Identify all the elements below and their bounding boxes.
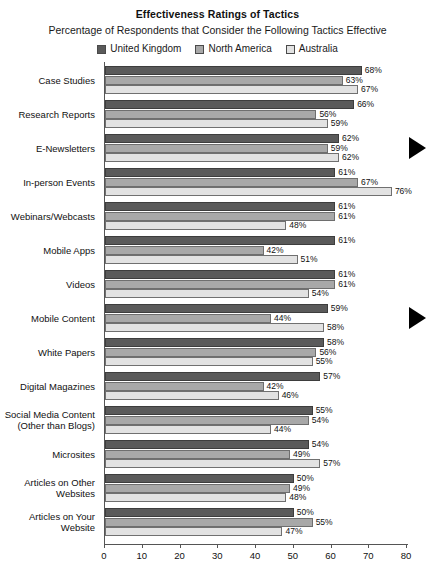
bar-value-label: 61%	[338, 211, 355, 222]
legend-item-north-america[interactable]: North America	[195, 44, 271, 54]
bar-row: 59%	[105, 304, 407, 313]
legend-item-australia[interactable]: Australia	[286, 44, 338, 54]
bar-row: 76%	[105, 187, 407, 196]
bar-value-label: 62%	[342, 152, 359, 163]
legend-label: United Kingdom	[110, 44, 181, 54]
bar-value-label: 59%	[331, 118, 348, 129]
bar-north-america[interactable]	[105, 518, 313, 527]
bar-row: 61%	[105, 236, 407, 245]
category-label: Webinars/Webcasts	[0, 211, 95, 222]
right-triangle-marker	[409, 137, 426, 159]
bar-north-america[interactable]	[105, 110, 316, 119]
category-label-column: Case StudiesResearch ReportsE-Newsletter…	[0, 62, 100, 542]
x-axis-tick	[406, 544, 407, 548]
bar-united-kingdom[interactable]	[105, 100, 354, 109]
bar-value-label: 76%	[395, 186, 412, 197]
bar-north-america[interactable]	[105, 348, 316, 357]
bar-north-america[interactable]	[105, 484, 290, 493]
bar-north-america[interactable]	[105, 144, 328, 153]
bar-value-label: 42%	[267, 245, 284, 256]
x-axis-tick-label: 40	[250, 550, 261, 561]
x-axis: 01020304050607080	[104, 544, 408, 545]
bar-north-america[interactable]	[105, 450, 290, 459]
bar-row: 62%	[105, 153, 407, 162]
bar-row: 49%	[105, 450, 407, 459]
bar-value-label: 51%	[301, 254, 318, 265]
bar-australia[interactable]	[105, 153, 339, 162]
bar-united-kingdom[interactable]	[105, 508, 294, 517]
bar-australia[interactable]	[105, 527, 282, 536]
x-axis-tick-label: 60	[325, 550, 336, 561]
bar-united-kingdom[interactable]	[105, 236, 335, 245]
x-axis-tick-label: 70	[363, 550, 374, 561]
bar-australia[interactable]	[105, 357, 313, 366]
bar-row: 54%	[105, 440, 407, 449]
bar-row: 58%	[105, 323, 407, 332]
bar-row: 51%	[105, 255, 407, 264]
bar-value-label: 54%	[312, 439, 329, 450]
bar-united-kingdom[interactable]	[105, 202, 335, 211]
category-label: Mobile Apps	[0, 245, 95, 256]
bar-row: 44%	[105, 314, 407, 323]
bar-row: 56%	[105, 110, 407, 119]
bars-column: 68%63%67%66%56%59%62%59%62%61%67%76%61%6…	[105, 62, 407, 542]
bar-row: 57%	[105, 459, 407, 468]
bar-north-america[interactable]	[105, 280, 335, 289]
title-block: Effectiveness Ratings of Tactics Percent…	[0, 8, 435, 37]
bar-united-kingdom[interactable]	[105, 406, 313, 415]
bar-australia[interactable]	[105, 119, 328, 128]
bar-value-label: 57%	[323, 458, 340, 469]
bar-row: 48%	[105, 493, 407, 502]
x-axis-tick-label: 0	[101, 550, 106, 561]
bar-north-america[interactable]	[105, 246, 264, 255]
bar-north-america[interactable]	[105, 314, 271, 323]
bar-value-label: 61%	[338, 235, 355, 246]
bar-value-label: 67%	[361, 177, 378, 188]
x-axis-tick	[368, 544, 369, 548]
bar-united-kingdom[interactable]	[105, 168, 335, 177]
bar-australia[interactable]	[105, 323, 324, 332]
category-label: In-person Events	[0, 177, 95, 188]
bar-united-kingdom[interactable]	[105, 66, 362, 75]
category-label: Research Reports	[0, 109, 95, 120]
bar-united-kingdom[interactable]	[105, 474, 294, 483]
legend-swatch-icon	[97, 45, 106, 54]
bar-row: 48%	[105, 221, 407, 230]
bar-row: 55%	[105, 518, 407, 527]
bar-united-kingdom[interactable]	[105, 134, 339, 143]
x-axis-tick-label: 20	[174, 550, 185, 561]
bar-row: 59%	[105, 144, 407, 153]
bar-united-kingdom[interactable]	[105, 304, 328, 313]
legend-item-united-kingdom[interactable]: United Kingdom	[97, 44, 181, 54]
bar-row: 47%	[105, 527, 407, 536]
bar-united-kingdom[interactable]	[105, 372, 320, 381]
bar-row: 54%	[105, 289, 407, 298]
bar-row: 42%	[105, 382, 407, 391]
bar-australia[interactable]	[105, 459, 320, 468]
bar-row: 58%	[105, 338, 407, 347]
x-axis-tick	[217, 544, 218, 548]
category-label: Articles on OtherWebsites	[0, 477, 95, 499]
bar-row: 61%	[105, 280, 407, 289]
bar-value-label: 67%	[361, 84, 378, 95]
bar-row: 61%	[105, 202, 407, 211]
category-label: White Papers	[0, 347, 95, 358]
bar-australia[interactable]	[105, 187, 392, 196]
bar-united-kingdom[interactable]	[105, 338, 324, 347]
bar-australia[interactable]	[105, 221, 286, 230]
bar-value-label: 66%	[357, 99, 374, 110]
bar-north-america[interactable]	[105, 76, 343, 85]
bar-value-label: 57%	[323, 371, 340, 382]
bar-value-label: 48%	[289, 220, 306, 231]
bar-australia[interactable]	[105, 493, 286, 502]
bar-value-label: 47%	[285, 526, 302, 537]
bar-australia[interactable]	[105, 255, 298, 264]
bar-australia[interactable]	[105, 85, 358, 94]
bar-north-america[interactable]	[105, 382, 264, 391]
bar-australia[interactable]	[105, 391, 279, 400]
bar-north-america[interactable]	[105, 178, 358, 187]
bar-united-kingdom[interactable]	[105, 440, 309, 449]
bar-australia[interactable]	[105, 289, 309, 298]
bar-united-kingdom[interactable]	[105, 270, 335, 279]
bar-australia[interactable]	[105, 425, 271, 434]
